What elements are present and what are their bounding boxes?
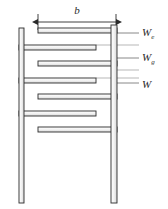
finger-4-left-anchored: [19, 78, 96, 83]
finger-group: [19, 28, 117, 132]
finger-6-left-anchored: [19, 111, 96, 116]
callout-w-symbol: W: [142, 78, 152, 90]
callout-leader-lines: [96, 33, 139, 83]
left-post: [19, 28, 24, 203]
finger-3-right-anchored: [38, 61, 117, 66]
callout-label-wg: Wg: [142, 51, 155, 66]
finger-7-right-anchored: [38, 127, 117, 132]
dimension-b: b: [38, 4, 116, 30]
dimension-label-b: b: [74, 4, 80, 16]
diagram-canvas: b We: [0, 0, 168, 209]
comb-structure-diagram: b We: [0, 0, 168, 209]
callout-wg-subscript: g: [151, 58, 155, 66]
finger-1-right-anchored: [38, 28, 117, 33]
callout-labels: We Wg W: [142, 26, 155, 90]
callout-we-subscript: e: [151, 33, 154, 41]
callout-label-w: W: [142, 78, 152, 90]
finger-5-right-anchored: [38, 94, 117, 99]
finger-2-left-anchored: [19, 45, 96, 50]
callout-label-we: We: [142, 26, 154, 41]
right-post: [111, 25, 117, 203]
